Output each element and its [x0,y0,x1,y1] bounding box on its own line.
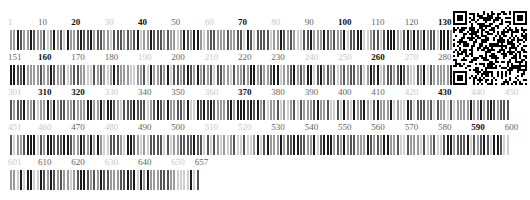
position-label: 470 [71,122,85,132]
position-label: 80 [271,17,280,27]
position-labels: 1511601701801902002102202302402502602702… [10,52,515,64]
sequence-bars [10,135,510,155]
position-label: 601 [8,157,22,167]
position-label: 640 [138,157,152,167]
position-label: 50 [171,17,180,27]
position-label: 580 [438,122,452,132]
sequence-row: 4514604704804905005105205305405505605705… [10,122,515,157]
position-label: 130 [438,17,452,27]
position-label: 230 [271,52,285,62]
position-label: 70 [238,17,247,27]
position-label: 90 [305,17,314,27]
position-label: 301 [8,87,22,97]
position-label: 451 [8,122,22,132]
position-label: 650 [171,157,185,167]
position-label: 210 [205,52,219,62]
sequence-row: 3013103203303403503603703803904004104204… [10,87,515,122]
sequence-bars [10,65,510,85]
position-label: 480 [105,122,119,132]
sequence-bars [10,170,200,190]
position-label: 370 [238,87,252,97]
position-label: 610 [38,157,52,167]
position-label: 490 [138,122,152,132]
position-label: 151 [8,52,22,62]
position-label: 250 [338,52,352,62]
position-label: 410 [371,87,385,97]
position-label: 450 [505,87,519,97]
position-label: 10 [38,17,47,27]
sequence-row: 1102030405060708090100110120130140150 [10,17,515,52]
position-label: 590 [471,122,485,132]
sequence-row: 1511601701801902002102202302402502602702… [10,52,515,87]
position-label: 30 [105,17,114,27]
position-label: 180 [105,52,119,62]
position-label: 460 [38,122,52,132]
position-label: 500 [171,122,185,132]
position-label: 110 [371,17,384,27]
position-label: 570 [405,122,419,132]
position-label: 120 [405,17,419,27]
position-label: 430 [438,87,452,97]
position-label: 20 [71,17,80,27]
qr-code-icon [451,11,529,85]
position-label: 40 [138,17,147,27]
position-label: 200 [171,52,185,62]
position-label: 1 [8,17,13,27]
position-label: 100 [338,17,352,27]
position-label: 190 [138,52,152,62]
position-label: 340 [138,87,152,97]
position-label: 160 [38,52,52,62]
position-label: 320 [71,87,85,97]
position-label: 240 [305,52,319,62]
position-label: 520 [238,122,252,132]
position-label: 540 [305,122,319,132]
position-label: 330 [105,87,119,97]
position-label: 420 [405,87,419,97]
position-label: 170 [71,52,85,62]
position-label: 440 [471,87,485,97]
position-label: 390 [305,87,319,97]
position-labels: 601610620630640650657 [10,157,515,169]
position-label: 560 [371,122,385,132]
position-labels: 4514604704804905005105205305405505605705… [10,122,515,134]
position-label: 350 [171,87,185,97]
position-label: 600 [505,122,519,132]
position-label: 530 [271,122,285,132]
position-label: 220 [238,52,252,62]
sequence-bars [10,30,510,50]
position-label: 280 [438,52,452,62]
position-label: 657 [195,157,209,167]
position-label: 380 [271,87,285,97]
position-label: 400 [338,87,352,97]
position-label: 550 [338,122,352,132]
position-labels: 3013103203303403503603703803904004104204… [10,87,515,99]
position-label: 260 [371,52,385,62]
position-labels: 1102030405060708090100110120130140150 [10,17,515,29]
sequence-bars [10,100,510,120]
position-label: 510 [205,122,219,132]
position-label: 620 [71,157,85,167]
position-label: 360 [205,87,219,97]
position-label: 630 [105,157,119,167]
sequence-row: 601610620630640650657 [10,157,515,192]
position-label: 310 [38,87,52,97]
position-label: 270 [405,52,419,62]
position-label: 60 [205,17,214,27]
